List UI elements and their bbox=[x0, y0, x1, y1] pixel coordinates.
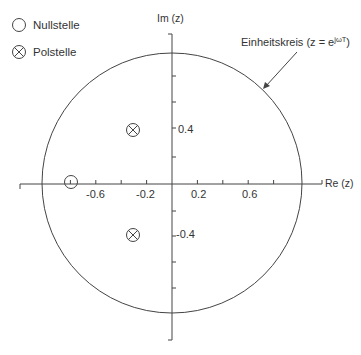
x-tick-label: 0.2 bbox=[191, 188, 206, 200]
pole-zero-diagram: Nullstelle Polstelle -0.6 -0.2 0.2 0.6 R… bbox=[0, 0, 361, 355]
zero-marker bbox=[65, 176, 78, 189]
legend: Nullstelle Polstelle bbox=[13, 19, 80, 59]
y-tick-label: -0.4 bbox=[176, 228, 195, 240]
y-axis-label: Im (z) bbox=[157, 12, 184, 24]
pole-marker bbox=[127, 124, 140, 137]
x-axis-label: Re (z) bbox=[325, 177, 354, 189]
annotation-arrow bbox=[266, 52, 297, 86]
x-tick-label: -0.6 bbox=[86, 188, 105, 200]
pole-marker bbox=[127, 229, 140, 242]
unit-circle-annotation: Einheitskreis (z = ejωT) bbox=[241, 35, 350, 89]
legend-label-pole: Polstelle bbox=[33, 46, 76, 58]
x-tick-label: -0.2 bbox=[136, 188, 155, 200]
zero-legend-icon bbox=[13, 19, 26, 32]
legend-label-zero: Nullstelle bbox=[33, 19, 80, 31]
y-tick-label: 0.4 bbox=[178, 123, 193, 135]
x-tick-label: 0.6 bbox=[242, 188, 257, 200]
y-axis: 0.4 -0.4 Im (z) bbox=[157, 12, 195, 340]
pole-legend-icon bbox=[13, 46, 26, 59]
annotation-text: Einheitskreis (z = ejωT) bbox=[241, 35, 350, 48]
